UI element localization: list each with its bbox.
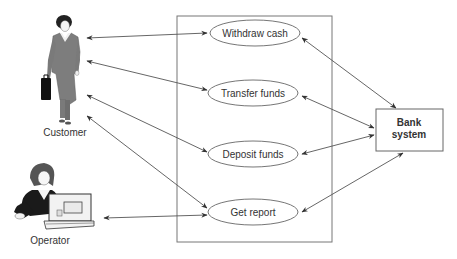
use-case-transfer: Transfer funds xyxy=(208,80,298,106)
association-transfer-bank xyxy=(302,96,374,128)
use-case-label: Deposit funds xyxy=(222,149,283,160)
use-case-withdraw: Withdraw cash xyxy=(210,20,300,46)
association-customer-transfer xyxy=(87,61,207,90)
bank-system-label-line2: system xyxy=(392,129,427,140)
association-deposit-bank xyxy=(302,135,374,154)
bank-system-label: Bank xyxy=(397,117,422,128)
association-operator-report xyxy=(104,215,207,218)
associations xyxy=(87,33,403,218)
customer-label: Customer xyxy=(43,127,87,138)
association-customer-deposit xyxy=(87,95,207,152)
operator-figure-icon xyxy=(14,163,94,229)
customer-figure-icon xyxy=(41,15,80,125)
use-cases: Withdraw cashTransfer fundsDeposit funds… xyxy=(208,20,300,225)
association-withdraw-bank xyxy=(302,38,396,108)
use-case-label: Get report xyxy=(230,207,275,218)
use-case-diagram: Withdraw cashTransfer fundsDeposit funds… xyxy=(0,0,457,259)
use-case-deposit: Deposit funds xyxy=(208,141,298,167)
association-customer-report xyxy=(87,116,207,208)
use-case-label: Transfer funds xyxy=(221,88,285,99)
use-case-label: Withdraw cash xyxy=(222,28,288,39)
association-customer-withdraw xyxy=(87,33,207,38)
use-case-report: Get report xyxy=(208,199,298,225)
association-report-bank xyxy=(302,153,403,212)
operator-label: Operator xyxy=(30,235,70,246)
